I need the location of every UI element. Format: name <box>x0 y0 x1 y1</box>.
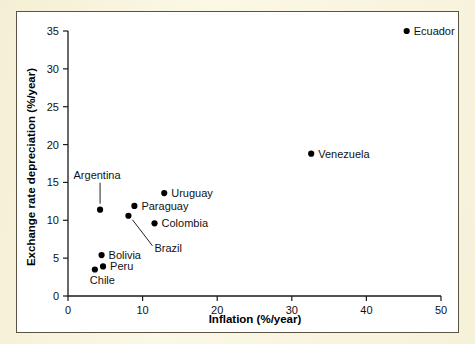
data-point-paraguay <box>131 203 137 209</box>
data-point-chile <box>92 266 98 272</box>
y-tick-label: 25 <box>47 101 59 113</box>
y-tick-label: 10 <box>47 214 59 226</box>
data-point-peru <box>100 263 106 269</box>
data-point-venezuela <box>308 151 314 157</box>
y-axis-title: Exchange rate depreciation (%/year) <box>25 68 37 266</box>
data-point-ecuador <box>404 28 410 34</box>
y-tick-label: 15 <box>47 176 59 188</box>
data-point-colombia <box>151 220 157 226</box>
point-label: Peru <box>110 260 133 272</box>
point-label: Paraguay <box>141 200 189 212</box>
x-tick-label: 50 <box>435 304 447 316</box>
point-label: Uruguay <box>171 187 213 199</box>
data-point-labels: EcuadorVenezuelaUruguayParaguayArgentina… <box>74 25 455 286</box>
y-tick-label: 35 <box>47 25 59 37</box>
chart-panel: 0510152025303501020304050 EcuadorVenezue… <box>16 11 459 333</box>
point-label: Venezuela <box>318 148 370 160</box>
leader-line <box>132 220 152 246</box>
data-point-brazil <box>125 213 131 219</box>
point-label: Chile <box>90 274 115 286</box>
data-point-bolivia <box>98 252 104 258</box>
x-tick-label: 0 <box>65 304 71 316</box>
scatter-plot: 0510152025303501020304050 EcuadorVenezue… <box>17 12 460 334</box>
data-point-uruguay <box>161 190 167 196</box>
x-tick-label: 40 <box>360 304 372 316</box>
point-label: Bolivia <box>109 249 142 261</box>
y-tick-label: 30 <box>47 63 59 75</box>
figure-page: 0510152025303501020304050 EcuadorVenezue… <box>0 0 475 344</box>
y-tick-label: 5 <box>53 252 59 264</box>
point-label: Ecuador <box>414 25 455 37</box>
x-tick-label: 10 <box>136 304 148 316</box>
x-axis-title: Inflation (%/year) <box>209 313 302 325</box>
y-tick-label: 20 <box>47 139 59 151</box>
data-point-argentina <box>97 207 103 213</box>
y-tick-label: 0 <box>53 290 59 302</box>
point-label: Brazil <box>154 242 182 254</box>
point-label: Argentina <box>74 169 122 181</box>
point-label: Colombia <box>162 217 209 229</box>
